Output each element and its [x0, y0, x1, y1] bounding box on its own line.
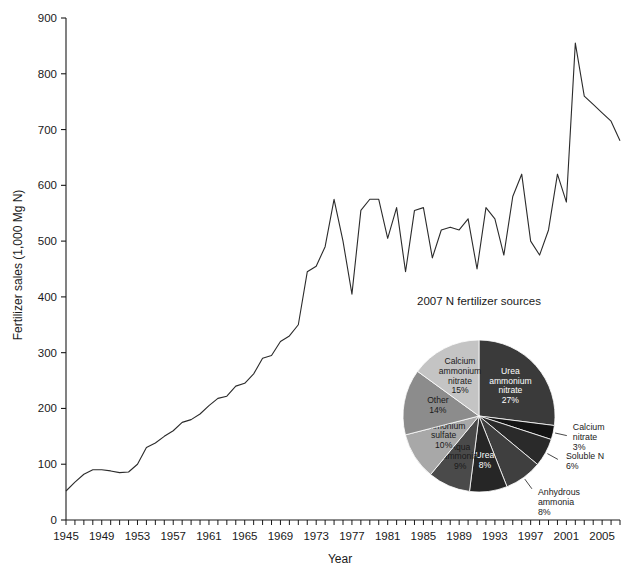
- x-axis-tick-label: 1945: [53, 530, 79, 542]
- pie-slice-label: Other14%: [427, 395, 449, 415]
- pie-slice-label-line: nitrate: [448, 376, 472, 386]
- x-axis-tick-label: 1981: [375, 530, 401, 542]
- pie-slice-label-line: Calcium: [444, 356, 475, 366]
- pie-outside-label-line: 6%: [566, 461, 579, 471]
- x-axis-tick-label: 1985: [411, 530, 437, 542]
- pie-outside-label-line: 8%: [538, 507, 551, 517]
- pie-slice-label-line: sulfate: [431, 430, 457, 440]
- pie-slice-label-line: 9%: [454, 461, 467, 471]
- x-axis-tick-label: 1965: [232, 530, 258, 542]
- pie-slice-label-line: ammonium: [489, 376, 532, 386]
- pie-slice-label-line: Urea: [476, 450, 495, 460]
- x-axis-title: Year: [328, 552, 352, 566]
- y-axis-tick-label: 500: [38, 235, 57, 247]
- x-axis-tick-label: 1957: [160, 530, 186, 542]
- y-axis-tick-label: 900: [38, 12, 57, 24]
- pie-chart-title: 2007 N fertilizer sources: [417, 295, 541, 307]
- y-axis-tick-label: 200: [38, 402, 57, 414]
- y-axis-tick-label: 600: [38, 179, 57, 191]
- pie-outside-label-line: Soluble N: [566, 451, 604, 461]
- pie-outside-label-line: ammonia: [538, 497, 574, 507]
- x-axis-tick-label: 1973: [303, 530, 329, 542]
- pie-slice-label-line: 14%: [429, 405, 447, 415]
- x-axis-tick-label: 1989: [446, 530, 472, 542]
- figure-background: [0, 0, 626, 573]
- pie-outside-label-line: nitrate: [573, 432, 598, 442]
- x-axis-tick-label: 1977: [339, 530, 365, 542]
- pie-outside-label-line: 3%: [573, 442, 586, 452]
- pie-slice-label-line: ammonium: [439, 366, 482, 376]
- x-axis-tick-label: 2001: [554, 530, 580, 542]
- x-axis-tick-label: 1997: [518, 530, 544, 542]
- y-axis-tick-label: 100: [38, 458, 57, 470]
- y-axis-tick-label: 700: [38, 124, 57, 136]
- x-axis-tick-label: 1949: [89, 530, 115, 542]
- x-axis-tick-label: 2005: [589, 530, 615, 542]
- pie-slice-label-line: Other: [427, 395, 449, 405]
- pie-slice-label-line: 8%: [479, 460, 492, 470]
- x-axis-tick-label: 1953: [125, 530, 151, 542]
- y-axis-tick-label: 800: [38, 68, 57, 80]
- x-axis-tick-label: 1993: [482, 530, 508, 542]
- x-axis-tick-label: 1969: [268, 530, 294, 542]
- y-axis-tick-label: 400: [38, 291, 57, 303]
- figure-root: 0100200300400500600700800900194519491953…: [0, 0, 626, 573]
- pie-slice-label-line: 15%: [451, 385, 469, 395]
- x-axis-tick-label: 1961: [196, 530, 222, 542]
- fertilizer-sales-figure: 0100200300400500600700800900194519491953…: [0, 0, 626, 573]
- pie-outside-label-line: Calcium: [573, 422, 605, 432]
- pie-outside-label-line: Anhydrous: [538, 487, 581, 497]
- y-axis-title: Fertilizer sales (1,000 Mg N): [11, 190, 25, 341]
- y-axis-tick-label: 0: [51, 514, 57, 526]
- pie-slice-label-line: Urea: [501, 366, 520, 376]
- pie-slice-label-line: nitrate: [498, 385, 522, 395]
- pie-slice-label-line: 27%: [502, 395, 520, 405]
- y-axis-tick-label: 300: [38, 347, 57, 359]
- pie-slice-label-line: 10%: [435, 440, 453, 450]
